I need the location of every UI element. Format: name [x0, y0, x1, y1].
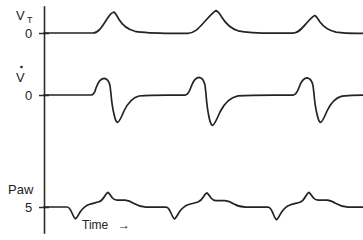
paw-axis-label-group: Paw 5	[8, 182, 34, 215]
panel-tidal-volume	[39, 11, 363, 34]
vt-trace	[44, 11, 363, 34]
panel-flow	[39, 77, 363, 125]
flow-baseline-value: 0	[25, 88, 32, 103]
paw-trace	[44, 192, 363, 220]
waveform-canvas: V T 0 V 0 Paw 5 Time →	[0, 0, 363, 240]
flow-overdot-icon	[20, 66, 23, 69]
time-axis-label-group: Time →	[82, 218, 130, 232]
paw-axis-label: Paw	[8, 182, 34, 197]
panel-airway-pressure	[39, 192, 363, 220]
paw-baseline-value: 5	[25, 200, 32, 215]
vt-axis-label-subscript: T	[27, 15, 33, 25]
flow-trace	[44, 77, 363, 125]
time-arrow-icon: →	[118, 218, 130, 232]
flow-axis-label: V	[16, 70, 25, 85]
flow-axis-label-group: V 0	[16, 66, 32, 103]
vt-axis-label-group: V T 0	[16, 8, 33, 41]
vt-axis-label: V	[16, 8, 25, 23]
time-axis-label: Time	[82, 218, 109, 232]
vt-baseline-value: 0	[25, 26, 32, 41]
waveform-figure: V T 0 V 0 Paw 5 Time →	[0, 0, 363, 240]
